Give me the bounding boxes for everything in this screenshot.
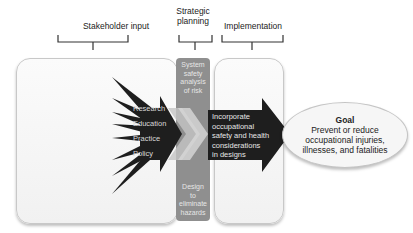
arrow-label-research: Research	[133, 104, 165, 113]
goal-line: Prevent or reduce	[283, 125, 407, 135]
goal-line: occupational injuries,	[283, 135, 407, 145]
goal-line: illnesses, and fatalities	[283, 145, 407, 155]
arrow-label-practice: Practice	[133, 134, 160, 143]
goal-title: Goal	[283, 115, 407, 125]
arrow-label-education: Education	[133, 119, 166, 128]
stakeholder-list: Agriculture, forestry, fishing Mining Co…	[0, 0, 118, 233]
goal-ellipse: Goal Prevent or reduce occupational inju…	[282, 102, 408, 168]
arrow-label-policy: Policy	[133, 149, 153, 158]
